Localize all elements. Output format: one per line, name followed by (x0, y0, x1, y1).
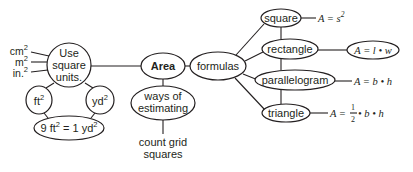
svg-text:units.: units. (56, 71, 82, 83)
node-conversion: 9 ft2 = 1 yd2 (34, 116, 104, 140)
formula-parallelogram: A = b • h (353, 76, 392, 87)
edge-formulas-square (236, 24, 264, 55)
svg-text:rectangle: rectangle (267, 43, 312, 55)
svg-text:count grid: count grid (139, 136, 187, 148)
svg-text:square: square (52, 59, 86, 71)
edge-in2 (31, 70, 48, 72)
node-ft2: ft2 (26, 86, 52, 114)
svg-text:• b • h: • b • h (358, 108, 384, 119)
node-rectangle: rectangle (262, 39, 318, 59)
area-concept-map: cm2 m2 in.2 Use square units. ft2 yd2 9 … (0, 0, 413, 172)
svg-text:triangle: triangle (268, 107, 304, 119)
svg-text:formulas: formulas (197, 60, 240, 72)
node-triangle: triangle (262, 104, 310, 122)
node-yd2: yd2 (86, 86, 114, 114)
node-use-square-units: Use square units. (47, 43, 91, 87)
svg-text:A =: A = (329, 108, 346, 119)
svg-text:9 ft2 = 1 yd2: 9 ft2 = 1 yd2 (41, 120, 98, 134)
edge-ft2-conv (44, 113, 48, 118)
svg-text:square: square (264, 12, 298, 24)
edge-cm2 (31, 52, 49, 56)
formula-square: A = s2 (317, 10, 345, 24)
formula-triangle: A = 1 2 • b • h (329, 103, 384, 124)
node-parallelogram: parallelogram (255, 70, 335, 90)
node-area: Area (141, 53, 185, 79)
svg-text:ways of: ways of (143, 90, 182, 102)
svg-text:estimating: estimating (138, 102, 188, 114)
svg-text:Area: Area (151, 60, 176, 72)
svg-text:parallelogram: parallelogram (262, 74, 329, 86)
node-ways-of-estimating: ways of estimating (131, 86, 195, 120)
edge-units-yd2 (85, 83, 93, 88)
unit-examples: cm2 m2 in.2 (10, 43, 28, 79)
edge-yd2-conv (91, 113, 95, 118)
edge-units-ft2 (46, 83, 54, 88)
edge-formulas-rectangle (245, 52, 263, 61)
svg-text:A = l • w: A = l • w (353, 45, 391, 56)
node-square: square (261, 9, 301, 27)
svg-text:squares: squares (143, 148, 183, 160)
unit-in2: in.2 (13, 65, 28, 79)
svg-text:2: 2 (351, 115, 355, 124)
svg-text:Use: Use (59, 47, 79, 59)
leaf-count-grid-squares: count grid squares (139, 136, 187, 160)
node-formulas: formulas (190, 52, 246, 80)
svg-text:1: 1 (351, 103, 355, 112)
node-formula-rectangle: A = l • w (347, 41, 399, 59)
